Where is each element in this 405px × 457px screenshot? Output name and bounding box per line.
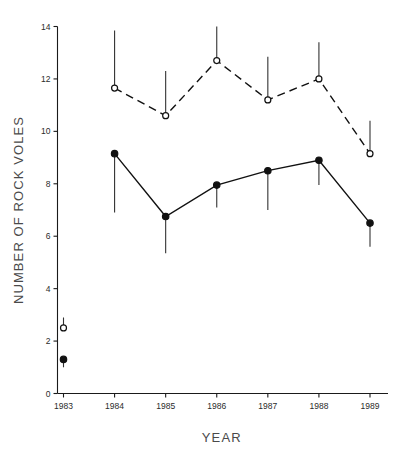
data-point-open-circle-series — [214, 58, 220, 64]
x-axis-tick-label: 1983 — [54, 401, 73, 411]
data-point-open-circle-series — [265, 97, 271, 103]
data-point-filled-circle-series — [316, 157, 322, 163]
y-axis-tick-label: 10 — [41, 126, 51, 136]
data-point-open-circle-series — [367, 151, 373, 157]
x-axis-tick-label: 1986 — [207, 401, 226, 411]
y-axis-title-text: NUMBER OF ROCK VOLES — [11, 116, 26, 304]
data-point-filled-circle-series — [265, 167, 271, 173]
y-axis-tick-label: 12 — [41, 74, 51, 84]
x-axis-tick-label: 1984 — [105, 401, 124, 411]
x-axis-tick-label: 1987 — [258, 401, 277, 411]
y-axis-tick-label: 6 — [46, 231, 51, 241]
data-point-open-circle-series — [316, 76, 322, 82]
data-point-filled-circle-series — [162, 213, 168, 219]
data-point-filled-circle-series — [111, 150, 117, 156]
y-axis-tick-label: 2 — [46, 336, 51, 346]
data-point-open-circle-series — [163, 113, 169, 119]
data-point-open-circle-series — [61, 325, 67, 331]
data-point-filled-circle-series — [60, 356, 66, 362]
data-point-open-circle-series — [112, 85, 118, 91]
chart-figure: 024681012141983198419851986198719881989Y… — [0, 0, 405, 457]
data-point-filled-circle-series — [367, 220, 373, 226]
series-line-open-circle-series — [115, 61, 370, 154]
x-axis-tick-label: 1988 — [309, 401, 328, 411]
y-axis-tick-label: 4 — [46, 284, 51, 294]
series-line-filled-circle-series — [115, 154, 370, 223]
line-chart-plot: 024681012141983198419851986198719881989Y… — [0, 0, 405, 457]
data-point-filled-circle-series — [214, 182, 220, 188]
x-axis-tick-label: 1985 — [156, 401, 175, 411]
x-axis-title-text: YEAR — [202, 430, 242, 445]
y-axis-tick-label: 8 — [46, 179, 51, 189]
x-axis-tick-label: 1989 — [361, 401, 380, 411]
y-axis-tick-label: 14 — [41, 22, 51, 32]
y-axis-tick-label: 0 — [46, 389, 51, 399]
